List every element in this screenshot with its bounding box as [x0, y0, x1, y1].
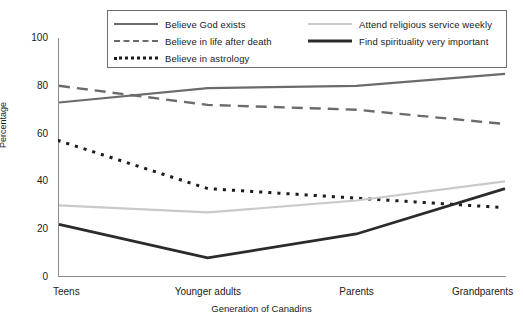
y-axis-title: Percentage	[0, 102, 8, 148]
x-axis-title: Generation of Canadins	[0, 303, 523, 314]
y-tick-label: 20	[22, 223, 48, 234]
series-line-believe-in-life-after-death	[59, 86, 505, 124]
y-tick-label: 60	[22, 128, 48, 139]
y-tick-label: 80	[22, 80, 48, 91]
x-tick-label: Younger adults	[175, 286, 241, 297]
legend-label: Attend religious service weekly	[359, 19, 492, 30]
series-line-believe-god-exists	[59, 74, 505, 103]
y-tick-label: 40	[22, 175, 48, 186]
legend-item-believe-god-exists: Believe God exists	[114, 16, 272, 32]
series-line-believe-in-astrology	[59, 141, 505, 208]
x-tick-label: Parents	[339, 286, 373, 297]
plot-area	[58, 38, 506, 277]
y-tick-label: 0	[22, 271, 48, 282]
chart-figure: Believe God exists Believe in life after…	[0, 0, 523, 324]
chart-lines	[58, 38, 506, 277]
legend-swatch-solid-lightgray	[308, 19, 352, 29]
x-tick-label: Teens	[53, 286, 80, 297]
legend-label: Believe God exists	[165, 19, 245, 30]
legend-swatch-solid-gray	[114, 19, 158, 29]
series-line-find-spirituality-very-important	[59, 189, 505, 258]
x-tick-label: Grandparents	[452, 286, 513, 297]
legend-item-attend-religious-service-weekly: Attend religious service weekly	[308, 16, 492, 32]
y-tick-label: 100	[22, 32, 48, 43]
